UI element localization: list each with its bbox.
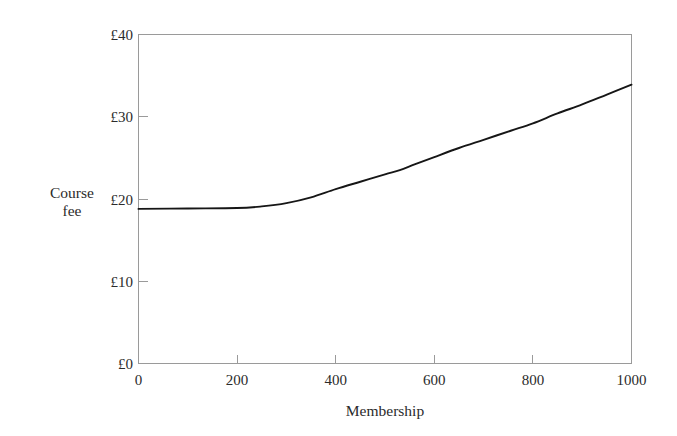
y-tick-label-40: £40 [111,27,134,43]
x-tick-label-600: 600 [423,372,446,388]
y-tick-label-20: £20 [111,192,134,208]
x-tick-label-800: 800 [522,372,545,388]
y-tick-label-0: £0 [118,356,133,372]
x-tick-label-0: 0 [135,372,143,388]
chart-background [0,0,677,436]
x-tick-label-200: 200 [226,372,249,388]
x-tick-label-1000: 1000 [617,372,647,388]
y-axis-title-line2: fee [63,202,82,219]
chart-figure: £0 £10 £20 £30 £40 0 200 400 600 800 100… [0,0,677,436]
x-tick-label-400: 400 [324,372,347,388]
y-axis-title-line1: Course [50,184,94,201]
y-tick-label-30: £30 [111,109,134,125]
line-chart: £0 £10 £20 £30 £40 0 200 400 600 800 100… [0,0,677,436]
y-tick-label-10: £10 [111,274,134,290]
x-axis-title: Membership [346,402,425,419]
